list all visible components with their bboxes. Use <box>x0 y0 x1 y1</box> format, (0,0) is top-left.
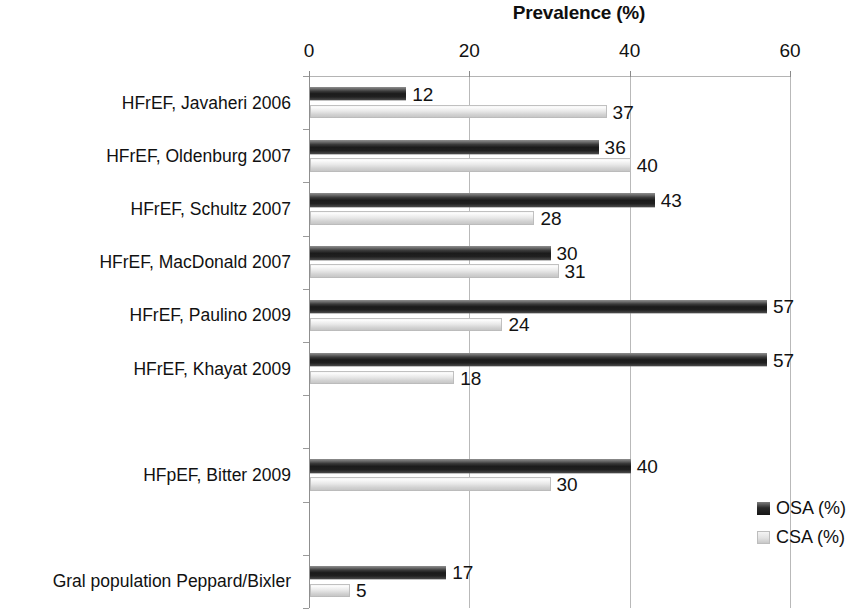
x-tick-60 <box>790 71 791 77</box>
bar-value-csa-0: 37 <box>613 102 634 124</box>
x-tick-20 <box>469 71 470 77</box>
category-tick-0 <box>303 76 309 77</box>
bar-value-csa-4: 24 <box>508 314 529 336</box>
bar-osa-4 <box>310 300 767 314</box>
category-tick-6 <box>303 395 309 396</box>
bar-csa-0 <box>310 105 607 119</box>
bar-csa-1 <box>310 158 631 172</box>
bar-value-osa-0: 12 <box>412 84 433 106</box>
bar-csa-9 <box>310 584 350 598</box>
category-label-4: HFrEF, Paulino 2009 <box>130 305 291 326</box>
bar-csa-3 <box>310 264 559 278</box>
x-tick-label-60: 60 <box>779 40 800 62</box>
bar-value-csa-7: 30 <box>557 474 578 496</box>
bar-osa-1 <box>310 140 599 154</box>
gridline-0 <box>309 76 310 608</box>
bar-osa-0 <box>310 87 406 101</box>
category-label-7: HFpEF, Bitter 2009 <box>143 465 291 486</box>
bar-csa-4 <box>310 318 502 332</box>
category-tick-3 <box>303 236 309 237</box>
bar-value-osa-4: 57 <box>773 296 794 318</box>
category-tick-4 <box>303 289 309 290</box>
category-tick-5 <box>303 342 309 343</box>
gridline-40 <box>630 76 631 608</box>
bar-value-csa-5: 18 <box>460 368 481 390</box>
category-axis-labels: HFrEF, Javaheri 2006HFrEF, Oldenburg 200… <box>0 76 300 608</box>
legend-label-csa: CSA (%) <box>776 527 845 548</box>
plot-area: 0204060 1237364043283031572457184030175 <box>309 76 790 608</box>
bar-value-osa-7: 40 <box>637 456 658 478</box>
bar-value-osa-2: 43 <box>661 190 682 212</box>
x-tick-40 <box>630 71 631 77</box>
bar-value-osa-1: 36 <box>605 137 626 159</box>
light-swatch-icon <box>757 531 770 544</box>
bar-osa-9 <box>310 566 446 580</box>
chart-title-text: Prevalence (%) <box>513 2 645 23</box>
bar-osa-5 <box>310 353 767 367</box>
category-label-3: HFrEF, MacDonald 2007 <box>99 252 291 273</box>
x-tick-label-40: 40 <box>619 40 640 62</box>
category-tick-8 <box>303 502 309 503</box>
bar-value-csa-3: 31 <box>565 261 586 283</box>
legend-label-osa: OSA (%) <box>776 498 846 519</box>
category-tick-2 <box>303 182 309 183</box>
bar-csa-5 <box>310 371 454 385</box>
x-tick-0 <box>309 71 310 77</box>
bar-value-csa-1: 40 <box>637 155 658 177</box>
gridline-20 <box>469 76 470 608</box>
x-tick-label-0: 0 <box>304 40 315 62</box>
dark-swatch-icon <box>757 502 770 515</box>
category-label-0: HFrEF, Javaheri 2006 <box>122 92 291 113</box>
bar-osa-7 <box>310 459 631 473</box>
chart-title: Prevalence (%) <box>0 2 862 24</box>
legend-item-csa[interactable]: CSA (%) <box>757 523 857 552</box>
legend-item-osa[interactable]: OSA (%) <box>757 494 857 523</box>
category-tick-10 <box>303 608 309 609</box>
bar-value-csa-2: 28 <box>540 208 561 230</box>
bar-csa-2 <box>310 211 534 225</box>
bar-value-osa-9: 17 <box>452 562 473 584</box>
category-label-9: Gral population Peppard/Bixler <box>53 571 291 592</box>
category-tick-1 <box>303 129 309 130</box>
category-tick-9 <box>303 555 309 556</box>
bar-value-osa-5: 57 <box>773 350 794 372</box>
bar-osa-3 <box>310 246 551 260</box>
prevalence-bar-chart: Prevalence (%) HFrEF, Javaheri 2006HFrEF… <box>0 0 862 615</box>
bar-csa-7 <box>310 477 551 491</box>
category-tick-7 <box>303 448 309 449</box>
chart-legend: OSA (%)CSA (%) <box>757 494 857 552</box>
bar-osa-2 <box>310 193 655 207</box>
bar-value-csa-9: 5 <box>356 580 367 602</box>
category-label-1: HFrEF, Oldenburg 2007 <box>106 145 291 166</box>
x-tick-label-20: 20 <box>459 40 480 62</box>
category-label-5: HFrEF, Khayat 2009 <box>133 358 291 379</box>
top-axis-line <box>309 76 790 77</box>
category-label-2: HFrEF, Schultz 2007 <box>131 199 291 220</box>
